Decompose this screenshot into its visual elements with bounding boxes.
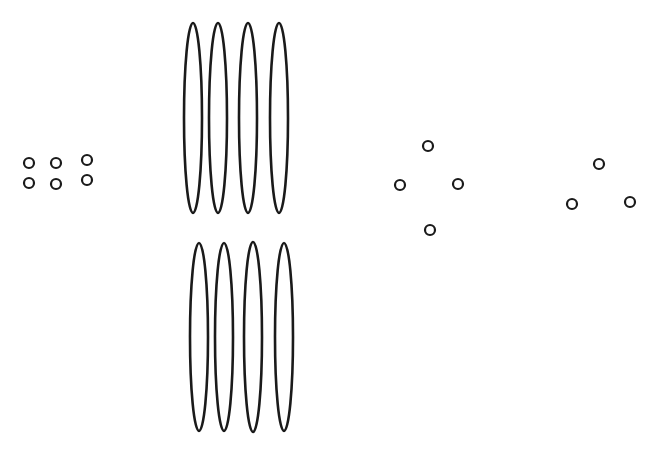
ellipse-shape bbox=[190, 243, 208, 431]
circle-shape bbox=[423, 141, 433, 151]
circle-shape bbox=[82, 175, 92, 185]
ellipse-shape bbox=[244, 242, 262, 432]
ellipse-shape bbox=[209, 23, 227, 213]
circle-shape bbox=[594, 159, 604, 169]
diagram-canvas bbox=[0, 0, 661, 456]
ellipse-shape bbox=[184, 23, 202, 213]
circle-shape bbox=[425, 225, 435, 235]
triangle-circles bbox=[567, 159, 635, 209]
ellipse-row-bottom bbox=[190, 242, 293, 432]
circle-shape bbox=[82, 155, 92, 165]
circle-shape bbox=[24, 178, 34, 188]
circle-shape bbox=[51, 179, 61, 189]
circle-shape bbox=[24, 158, 34, 168]
ellipse-row-top bbox=[184, 23, 288, 213]
circle-shape bbox=[567, 199, 577, 209]
circle-shape bbox=[51, 158, 61, 168]
ellipse-shape bbox=[239, 23, 257, 213]
circle-shape bbox=[453, 179, 463, 189]
ellipse-shape bbox=[275, 243, 293, 431]
small-circle-grid bbox=[24, 155, 92, 189]
ellipse-shape bbox=[270, 23, 288, 213]
circle-shape bbox=[625, 197, 635, 207]
diamond-circles bbox=[395, 141, 463, 235]
circle-shape bbox=[395, 180, 405, 190]
ellipse-shape bbox=[215, 243, 233, 431]
